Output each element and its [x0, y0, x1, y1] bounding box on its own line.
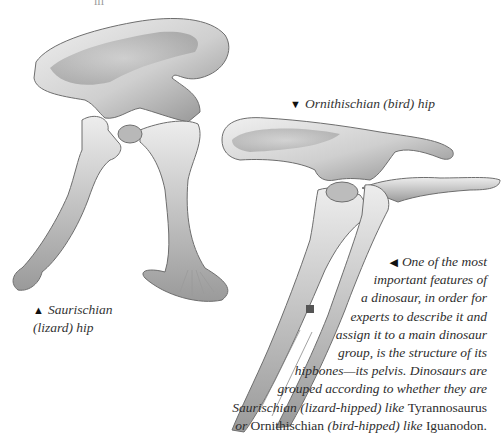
genus-iguanodon: Iguanodon.: [426, 418, 487, 433]
up-triangle-icon: ▲: [33, 304, 44, 316]
body-line: important features of: [197, 271, 487, 289]
body-line: assign it to a main dinosaur: [197, 326, 487, 344]
body-line: Saurischian (lizard-hipped) like: [232, 400, 407, 415]
down-triangle-icon: ▼: [290, 98, 301, 110]
body-line: experts to describe it and: [197, 308, 487, 326]
body-paragraph: ◀One of the most important features of a…: [197, 253, 487, 435]
term-ornithischian: Ornithischian: [251, 418, 328, 433]
body-line: or: [235, 418, 250, 433]
saurischian-caption-line2: (lizard) hip: [33, 319, 143, 336]
ornithischian-caption: ▼Ornithischian (bird) hip: [290, 95, 435, 113]
genus-tyrannosaurus: Tyrannosaurus: [408, 400, 487, 415]
body-line: (bird-hipped) like: [327, 418, 425, 433]
saurischian-caption-line1: Saurischian: [48, 302, 113, 317]
body-line: group, is the structure of its: [197, 344, 487, 362]
body-line: hipbones—its pelvis. Dinosaurs are: [197, 362, 487, 380]
ornithischian-caption-text: Ornithischian (bird) hip: [305, 96, 435, 111]
body-line: One of the most: [402, 254, 487, 269]
saurischian-caption: ▲Saurischian (lizard) hip: [33, 301, 143, 336]
body-line: a dinosaur, in order for: [197, 289, 487, 307]
body-line: grouped according to whether they are: [197, 380, 487, 398]
left-triangle-icon: ◀: [389, 256, 397, 268]
